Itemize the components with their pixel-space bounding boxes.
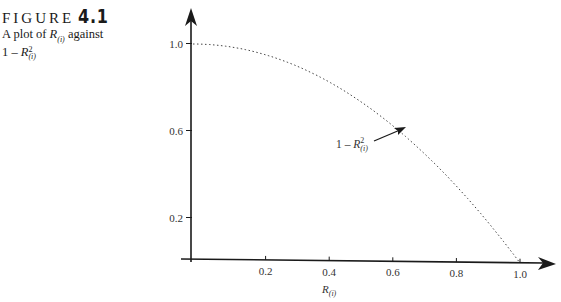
- x-tick-label: 0.8: [450, 267, 464, 279]
- y-ticks: 0.20.61.0: [169, 38, 192, 224]
- x-tick-label: 0.4: [322, 266, 336, 278]
- x-tick-label: 0.6: [386, 266, 400, 278]
- y-tick-label: 1.0: [169, 38, 183, 50]
- annotation-label: 1 – R2(i): [336, 136, 368, 153]
- x-axis: [181, 259, 545, 263]
- y-tick-label: 0.2: [169, 212, 183, 224]
- chart: 0.20.61.0 0.20.40.60.81.0 1 – R2(i) R(i): [0, 0, 561, 302]
- x-tick-label: 1.0: [513, 268, 527, 280]
- annotation-arrowhead-icon: [394, 127, 406, 135]
- x-axis-title: R(i): [321, 283, 337, 298]
- y-tick-label: 0.6: [169, 125, 183, 137]
- x-tick-label: 0.2: [259, 265, 273, 277]
- curve-1-minus-r-squared: [193, 44, 520, 263]
- annotation-arrow: [374, 130, 400, 141]
